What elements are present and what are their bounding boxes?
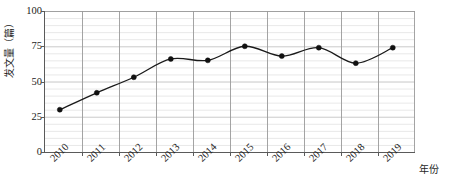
y-tick-mark-100 <box>41 11 45 12</box>
y-tick-label-75: 75 <box>16 41 42 51</box>
x-axis-title: 年份 <box>419 161 439 176</box>
data-point-2010 <box>57 107 62 112</box>
line-chart: 发文量（篇） 0255075100 2010201120122013201420… <box>0 0 449 188</box>
y-axis-tick-labels: 0255075100 <box>12 0 42 188</box>
y-tick-label-25: 25 <box>16 112 42 122</box>
data-point-2013 <box>168 56 173 61</box>
data-point-2011 <box>94 90 99 95</box>
y-tick-mark-25 <box>41 117 45 118</box>
y-tick-mark-50 <box>41 82 45 83</box>
y-tick-label-100: 100 <box>16 6 42 16</box>
x-axis-tick-labels: 2010201120122013201420152016201720182019 <box>44 152 414 188</box>
y-tick-label-50: 50 <box>16 77 42 87</box>
y-tick-mark-75 <box>41 46 45 47</box>
y-tick-label-0: 0 <box>16 147 42 157</box>
data-point-2015 <box>242 44 247 49</box>
data-point-2019 <box>390 45 395 50</box>
data-series-line <box>45 11 415 152</box>
data-point-2017 <box>316 45 321 50</box>
data-point-2014 <box>205 58 210 63</box>
data-point-2012 <box>131 75 136 80</box>
data-point-2018 <box>353 61 358 66</box>
plot-area <box>44 11 415 153</box>
data-point-2016 <box>279 54 284 59</box>
